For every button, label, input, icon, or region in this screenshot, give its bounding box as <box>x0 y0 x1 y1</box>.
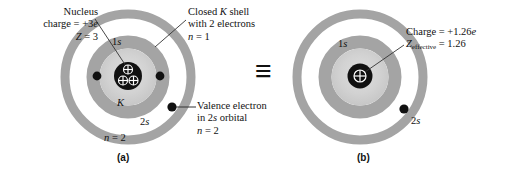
proton-symbol-a-2 <box>119 76 128 85</box>
kshell-label-line3: n = 1 <box>188 31 210 42</box>
z-effective-subscript: effective <box>412 43 436 51</box>
shell-label-n2-a: n = 2 <box>104 132 126 143</box>
label-nucleus-charge: Nucleus charge = +3e Z = 3 <box>2 6 98 43</box>
nucleus-label-line2: charge = +3e <box>43 18 98 29</box>
kshell-label-line2: with 2 electrons <box>188 18 255 29</box>
valence-label-line1: Valence electron <box>197 100 267 111</box>
atom-shell-model-figure: Nucleus charge = +3e Z = 3 Closed K shel… <box>0 0 514 171</box>
shell-label-k-a: K <box>117 97 124 108</box>
proton-group-b <box>354 70 366 82</box>
label-effective-charge: Charge = +1.26e Zeffective = 1.26 <box>406 26 514 53</box>
valence-electron-a <box>167 102 176 111</box>
proton-symbol-a-3 <box>129 76 138 85</box>
valence-label-line3: n = 2 <box>197 125 219 136</box>
charge-label-line2: Zeffective = 1.26 <box>406 38 466 49</box>
k-shell-electron-left-a <box>93 72 102 81</box>
kshell-label-line1: Closed K shell <box>188 6 249 17</box>
valence-electron-b <box>399 104 408 113</box>
proton-symbol-b-1 <box>354 70 366 82</box>
orbital-label-1s-b: 1s <box>338 38 347 49</box>
panel-caption-b: (b) <box>357 152 370 163</box>
orbital-label-1s-a: 1s <box>112 36 121 47</box>
nucleus-label-line3: Z = 3 <box>76 31 98 42</box>
orbital-label-2s-b: 2s <box>411 115 420 126</box>
label-valence-electron: Valence electron in 2s orbital n = 2 <box>197 100 307 137</box>
label-closed-k-shell: Closed K shell with 2 electrons n = 1 <box>188 6 298 43</box>
equivalence-symbol: ≡ <box>255 56 272 86</box>
proton-symbol-a-1 <box>124 65 133 74</box>
k-shell-electron-right-a <box>156 72 165 81</box>
charge-label-line1: Charge = +1.26e <box>406 26 476 37</box>
nucleus-label-line1: Nucleus <box>64 6 98 17</box>
orbital-label-2s-a: 2s <box>140 116 149 127</box>
panel-caption-a: (a) <box>117 152 129 163</box>
valence-label-line2: in 2s orbital <box>197 112 247 123</box>
